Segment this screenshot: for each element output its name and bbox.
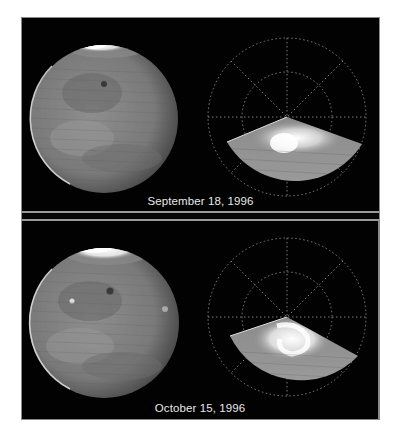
panel-caption: October 15, 1996 [22,402,378,414]
polar-projection-september [208,38,367,196]
panel-october: October 15, 1996 [21,219,380,420]
panel-september-graphic [22,18,381,214]
panel-caption: September 18, 1996 [22,195,379,207]
panel-october-graphic [22,221,379,420]
planet-disk-october [29,237,182,398]
panel-september: September 18, 1996 [21,17,380,213]
polar-projection-october [208,238,367,399]
planet-disk-september [30,38,182,193]
